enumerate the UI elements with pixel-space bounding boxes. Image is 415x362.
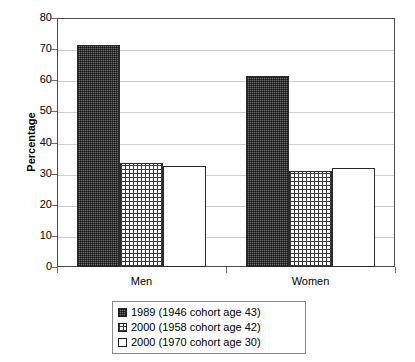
y-axis-tick-label: 70	[12, 43, 52, 54]
y-axis-tick-mark	[51, 236, 57, 237]
x-axis-category-label: Women	[261, 275, 361, 287]
y-axis-tick-label: 40	[12, 137, 52, 148]
y-axis-tick-label: 50	[12, 105, 52, 116]
x-axis-tick-mark	[226, 267, 227, 273]
legend-item-label: 1989 (1946 cohort age 43)	[131, 307, 261, 318]
legend-item: 1989 (1946 cohort age 43)	[118, 305, 300, 320]
y-axis-tick-label: 10	[12, 230, 52, 241]
y-axis-tick-mark	[51, 18, 57, 19]
x-axis-category-label: Men	[92, 275, 192, 287]
y-axis-tick-mark	[51, 174, 57, 175]
y-axis-tick-mark	[51, 49, 57, 50]
bar	[289, 171, 332, 267]
legend-item-label: 2000 (1970 cohort age 30)	[131, 337, 261, 348]
legend-item: 2000 (1970 cohort age 30)	[118, 335, 300, 350]
white-solid-swatch	[118, 338, 127, 347]
y-axis-tick-label: 0	[12, 261, 52, 272]
bar	[163, 166, 206, 267]
y-axis-tick-mark	[51, 80, 57, 81]
x-axis-tick-mark	[57, 267, 58, 273]
y-axis-tick-label: 60	[12, 74, 52, 85]
chart-legend: 1989 (1946 cohort age 43)2000 (1958 coho…	[112, 301, 306, 354]
bar	[246, 76, 289, 267]
bar	[120, 163, 163, 267]
y-axis-tick-mark	[51, 111, 57, 112]
x-axis-tick-mark	[395, 267, 396, 273]
y-axis-tick-mark	[51, 205, 57, 206]
y-axis-tick-mark	[51, 143, 57, 144]
y-axis-tick-label: 30	[12, 168, 52, 179]
bar	[332, 168, 375, 267]
crosshatch-grid-swatch	[118, 323, 127, 332]
legend-item: 2000 (1958 cohort age 42)	[118, 320, 300, 335]
y-axis-tick-label: 20	[12, 199, 52, 210]
dark-checker-swatch	[118, 308, 127, 317]
legend-item-label: 2000 (1958 cohort age 42)	[131, 322, 261, 333]
y-axis-tick-label: 80	[12, 12, 52, 23]
bar-chart: Percentage 80706050403020100 MenWomen 19…	[0, 0, 415, 362]
bar	[77, 45, 120, 267]
